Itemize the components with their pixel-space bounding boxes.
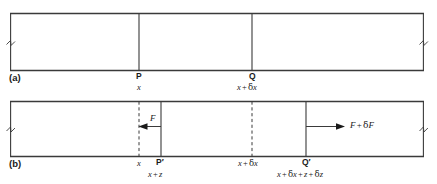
- coord-label-P: x: [137, 83, 141, 92]
- force-dF-op: +: [356, 120, 363, 130]
- coord-Qp-op2: +: [297, 169, 304, 179]
- coord-Pp-var: z: [159, 169, 162, 179]
- force-label-F-plus-delta-F: F+δF: [350, 121, 374, 130]
- coord-Qp-op1: +: [281, 169, 288, 179]
- figure-canvas: [0, 0, 437, 184]
- coord-label-x-plus-dx-b: x+δx: [238, 159, 258, 168]
- panel-a-caption: (a): [9, 73, 21, 83]
- force-arrow-F: [139, 123, 162, 130]
- panel-a-bar: [7, 14, 428, 71]
- physics-figure: (a) P x Q x+δx (b) x P′ x+z x+δx Q′ x+δx…: [0, 0, 437, 184]
- coord-xdx-var: x: [254, 158, 258, 168]
- panel-b-caption: (b): [9, 159, 21, 169]
- coord-Qp-op3: +: [307, 169, 314, 179]
- point-label-Q: Q: [249, 72, 256, 81]
- coord-Q-var: x: [253, 82, 257, 92]
- coord-label-P-prime: x+z: [148, 170, 162, 179]
- coord-Qp-v3: z: [320, 169, 323, 179]
- force-dF-lead: F: [350, 120, 356, 130]
- coord-label-x-b: x: [137, 159, 141, 168]
- coord-label-Q: x+δx: [237, 83, 257, 92]
- coord-Pp-op: +: [152, 169, 159, 179]
- force-dF-var: F: [368, 120, 374, 130]
- break-mark-icon: [7, 127, 16, 132]
- point-label-P: P: [136, 72, 142, 81]
- point-label-Q-prime: Q′: [302, 158, 311, 167]
- break-mark-icon: [7, 41, 16, 46]
- force-label-F: F: [150, 114, 156, 123]
- force-arrow-F-plus-delta-F: [306, 123, 345, 130]
- point-label-P-prime: P′: [156, 158, 164, 167]
- coord-label-Q-prime: x+δx+z+δz: [277, 170, 323, 179]
- coord-xdx-op: +: [242, 158, 249, 168]
- break-mark-icon: [420, 41, 428, 46]
- coord-Q-op: +: [241, 82, 248, 92]
- break-mark-icon: [420, 127, 428, 132]
